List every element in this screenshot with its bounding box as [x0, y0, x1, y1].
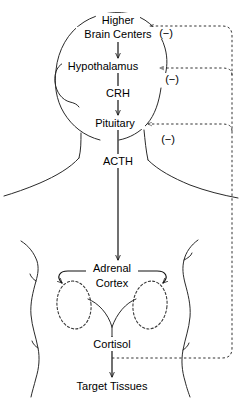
shoulder-right — [148, 160, 238, 198]
hpa-axis-diagram: Higher Brain Centers Hypothalamus CRH Pi… — [0, 0, 243, 398]
neck-right — [144, 130, 148, 160]
torso-tick-left — [30, 274, 36, 281]
feedback-sign-labels: (−) (−) (−) — [159, 27, 179, 145]
left-kidney — [55, 279, 94, 330]
right-ureter — [112, 299, 136, 327]
shoulder-left — [4, 158, 79, 196]
left-ureter — [88, 299, 112, 327]
right-kidney — [131, 279, 170, 330]
label-pituitary: Pituitary — [95, 117, 135, 129]
feedback-sign-brain: (−) — [159, 27, 173, 39]
torso-side-right — [182, 240, 198, 397]
feedback-sign-pituitary: (−) — [161, 133, 175, 145]
label-higher-brain-centers-line2: Brain Centers — [84, 28, 152, 40]
label-target-tissues: Target Tissues — [77, 380, 148, 392]
label-adrenal-cortex-line1: Adrenal — [93, 262, 131, 274]
torso-side-left — [21, 241, 39, 397]
label-acth: ACTH — [103, 155, 133, 167]
feedback-branch-pituitary — [148, 124, 232, 131]
label-cortisol: Cortisol — [93, 338, 130, 350]
label-higher-brain-centers-line1: Higher — [102, 14, 135, 26]
feedback-sign-hypothalamus: (−) — [165, 73, 179, 85]
neck-left — [79, 133, 81, 158]
label-crh: CRH — [106, 87, 130, 99]
label-hypothalamus: Hypothalamus — [68, 60, 139, 72]
diagram-canvas: Higher Brain Centers Hypothalamus CRH Pi… — [0, 0, 243, 398]
label-adrenal-cortex-line2: Cortex — [96, 277, 129, 289]
